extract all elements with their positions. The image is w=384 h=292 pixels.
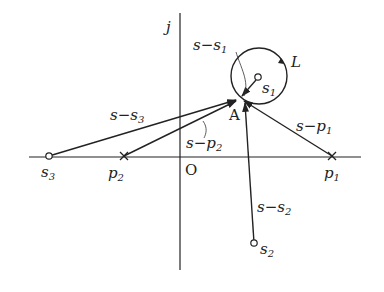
zero-s3-marker <box>46 153 52 159</box>
zero-s1-label: s1 <box>262 79 276 98</box>
complex-plane-diagram: j O L A s1 s2 s3 p2 p1 s−s1 s−s2 s−s3 s−… <box>0 0 384 292</box>
imaginary-axis-label: j <box>163 18 171 36</box>
vector-s-s3-label: s−s3 <box>110 106 144 125</box>
zero-s1-marker <box>255 74 261 80</box>
vector-s-p2-label: s−p2 <box>186 134 222 153</box>
pole-p1-label: p1 <box>324 164 340 183</box>
zero-s2-marker <box>251 240 257 246</box>
contour-label: L <box>290 53 301 71</box>
vector-s-s2-label: s−s2 <box>257 198 291 217</box>
origin-label: O <box>185 161 197 179</box>
zero-s3-label: s3 <box>41 163 55 182</box>
vector-s-s2 <box>245 103 254 243</box>
vector-s-s1-label: s−s1 <box>193 36 227 55</box>
pole-p2-label: p2 <box>108 164 124 183</box>
point-A-label: A <box>228 106 240 124</box>
pole-p2-marker <box>120 152 128 160</box>
vector-s-s1 <box>242 80 256 96</box>
zero-s2-label: s2 <box>260 240 274 259</box>
pole-p1-marker <box>328 152 336 160</box>
vector-s-p1-label: s−p1 <box>296 117 332 136</box>
